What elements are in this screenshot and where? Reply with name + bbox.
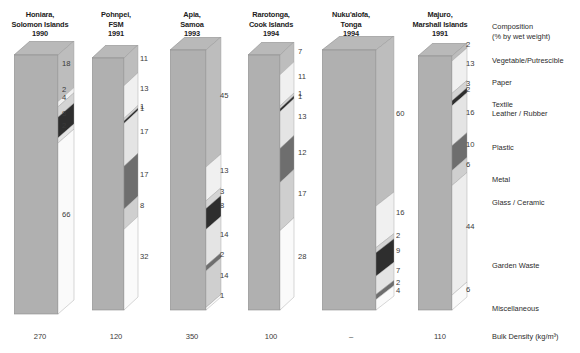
bar-1	[92, 45, 138, 314]
column-header-region: Marshall Islands	[402, 20, 478, 30]
bar-segment	[206, 37, 221, 167]
segment-value-label: 2	[466, 86, 470, 94]
bulk-density-value-1: 120	[84, 332, 148, 341]
segment-value-label: 14	[220, 231, 228, 239]
column-header-year: 1990	[2, 29, 78, 39]
segment-value-label: 44	[466, 223, 474, 231]
legend-item-leather: Leather / Rubber	[492, 110, 547, 118]
bar-3	[248, 42, 294, 314]
segment-value-label: 16	[466, 109, 474, 117]
bar-4	[322, 36, 394, 314]
segment-value-label: 17	[140, 171, 148, 179]
segment-value-label: 7	[396, 267, 400, 275]
bar-segment	[452, 172, 467, 295]
segment-value-label: 13	[140, 85, 148, 93]
segment-value-label: 66	[62, 211, 70, 219]
segment-value-label: 60	[396, 110, 404, 118]
legend-item-glass: Glass / Ceramic	[492, 199, 545, 207]
legend-title: Composition(% by wet weight)	[492, 22, 550, 42]
bulk-density-value-4: –	[314, 332, 388, 341]
column-header-city: Pohnpei,	[84, 10, 148, 20]
bar-side-stack-5	[452, 43, 467, 310]
bar-3d-shape-1	[92, 45, 140, 314]
legend-title-line1: Composition	[492, 22, 550, 32]
column-header-0: Honiara,Solomon Islands1990	[2, 10, 78, 39]
bar-2	[170, 37, 221, 314]
column-header-5: Majuro,Marshall Islands1991	[402, 10, 478, 39]
segment-value-label: 2	[220, 251, 224, 259]
column-header-3: Rarotonga,Cook Islands1994	[236, 10, 306, 39]
segment-value-label: 11	[140, 55, 148, 63]
bar-side-stack-4	[376, 36, 394, 310]
legend-title-line2: (% by wet weight)	[492, 32, 550, 42]
segment-value-label: 18	[62, 60, 70, 68]
bar-front-face	[14, 55, 58, 314]
segment-value-label: 2	[62, 122, 66, 130]
column-header-city: Majuro,	[402, 10, 478, 20]
segment-value-label: 13	[298, 113, 306, 121]
bar-5	[418, 43, 467, 314]
legend-item-metal: Metal	[492, 176, 510, 184]
segment-value-label: 17	[298, 190, 306, 198]
column-header-region: FSM	[84, 20, 148, 30]
column-header-city: Honiara,	[2, 10, 78, 20]
column-header-year: 1991	[402, 29, 478, 39]
bar-segment	[376, 36, 394, 206]
bar-segment	[58, 129, 74, 314]
segment-value-label: 14	[220, 272, 228, 280]
segment-value-label: 8	[140, 202, 144, 210]
segment-value-label: 12	[298, 149, 306, 157]
legend-item-plastic: Plastic	[492, 144, 514, 152]
segment-value-label: 10	[466, 141, 474, 149]
bar-3d-shape-3	[248, 42, 296, 314]
chart-canvas: Honiara,Solomon Islands199018248266270Po…	[0, 0, 580, 353]
bar-segment	[124, 216, 138, 310]
legend-item-vegetable: Vegetable/Putrescible	[492, 57, 564, 65]
segment-value-label: 8	[220, 202, 224, 210]
segment-value-label: 4	[62, 94, 66, 102]
legend-item-textile: Textile	[492, 101, 513, 109]
column-header-city: Apia,	[160, 10, 224, 20]
bulk-density-value-5: 110	[402, 332, 478, 341]
bar-side-stack-0	[58, 41, 74, 314]
segment-value-label: 16	[396, 209, 404, 217]
bar-front-face	[322, 50, 376, 310]
bar-front-face	[418, 56, 452, 310]
column-header-region: Samoa	[160, 20, 224, 30]
bar-side-stack-2	[206, 37, 221, 310]
segment-value-label: 2	[396, 232, 400, 240]
column-header-region: Solomon Islands	[2, 20, 78, 30]
column-header-region: Cook Islands	[236, 20, 306, 30]
bar-side-stack-3	[280, 42, 294, 310]
segment-value-label: 2	[466, 41, 470, 49]
bulk-density-value-3: 100	[236, 332, 306, 341]
bar-front-face	[92, 58, 124, 310]
bar-front-face	[170, 50, 206, 310]
column-header-4: Nuku'alofa,Tonga1994	[314, 10, 388, 39]
bar-3d-shape-4	[322, 36, 396, 314]
bulk-density-label: Bulk Density (kg/m³)	[492, 332, 559, 341]
segment-value-label: 45	[220, 92, 228, 100]
segment-value-label: 8	[62, 110, 66, 118]
segment-value-label: 1	[220, 292, 224, 300]
column-header-city: Rarotonga,	[236, 10, 306, 20]
segment-value-label: 6	[466, 161, 470, 169]
segment-value-label: 7	[298, 48, 302, 56]
segment-value-label: 9	[396, 247, 400, 255]
bar-segment	[280, 218, 294, 310]
legend-item-paper: Paper	[492, 79, 512, 87]
column-header-2: Apia,Samoa1993	[160, 10, 224, 39]
segment-value-label: 28	[298, 253, 306, 261]
bar-3d-shape-5	[418, 43, 469, 314]
segment-value-label: 11	[298, 73, 306, 81]
legend-item-misc: Miscellaneous	[492, 305, 539, 313]
segment-value-label: 1	[298, 93, 302, 101]
bar-3d-shape-0	[14, 41, 76, 318]
bar-3d-shape-2	[170, 37, 223, 314]
legend-item-garden: Garden Waste	[492, 262, 539, 270]
segment-value-label: 17	[140, 128, 148, 136]
bar-front-face	[248, 55, 280, 310]
column-header-year: 1991	[84, 29, 148, 39]
segment-value-label: 4	[396, 287, 400, 295]
segment-value-label: 6	[466, 286, 470, 294]
